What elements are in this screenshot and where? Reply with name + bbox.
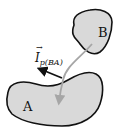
impulse-arrow xyxy=(40,69,62,78)
diagram-canvas xyxy=(0,0,128,137)
body-b-label: B xyxy=(98,26,108,39)
impulse-subscript: p(BA) xyxy=(40,58,63,67)
body-a-shape xyxy=(7,72,103,126)
body-a-label: A xyxy=(23,100,32,113)
impulse-label: Ip(BA) xyxy=(35,52,63,67)
impulse-symbol: I xyxy=(35,52,40,64)
